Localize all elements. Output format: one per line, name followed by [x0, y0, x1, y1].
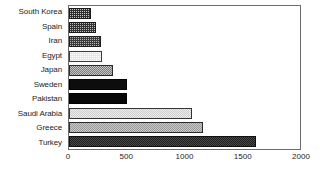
bar-row	[69, 106, 300, 120]
category-label: Pakistan	[0, 92, 66, 107]
category-label: South Korea	[0, 5, 66, 20]
bar	[69, 36, 101, 47]
category-label: Saudi Arabia	[0, 107, 66, 122]
category-axis: South KoreaSpainIranEgyptJapanSwedenPaki…	[0, 5, 66, 150]
bar-row	[69, 49, 300, 63]
bar	[69, 122, 203, 133]
category-label: Turkey	[0, 136, 66, 151]
bar-row	[69, 6, 300, 20]
category-label: Egypt	[0, 49, 66, 64]
axis-tick-label: 2000	[292, 153, 310, 161]
bar	[69, 65, 113, 76]
category-label: Japan	[0, 63, 66, 78]
bar	[69, 108, 192, 119]
plot-area	[68, 5, 301, 150]
bar	[69, 51, 102, 62]
category-label: Spain	[0, 20, 66, 35]
bar-row	[69, 92, 300, 106]
bar	[69, 79, 127, 90]
bar-row	[69, 20, 300, 34]
bar-row	[69, 135, 300, 149]
axis-tick-label: 1500	[234, 153, 252, 161]
bar	[69, 93, 127, 104]
axis-tick-label: 0	[66, 153, 70, 161]
category-label: Iran	[0, 34, 66, 49]
bar-series	[69, 6, 300, 149]
category-label: Sweden	[0, 78, 66, 93]
bar	[69, 22, 96, 33]
axis-tick-label: 1000	[176, 153, 194, 161]
bar-row	[69, 35, 300, 49]
bar	[69, 8, 91, 19]
bar-row	[69, 77, 300, 91]
axis-tick-label: 500	[120, 153, 133, 161]
bar	[69, 136, 256, 147]
bar-chart: South KoreaSpainIranEgyptJapanSwedenPaki…	[0, 0, 320, 182]
value-axis: 0500100015002000	[68, 150, 301, 168]
category-label: Greece	[0, 121, 66, 136]
bar-row	[69, 120, 300, 134]
bar-row	[69, 63, 300, 77]
